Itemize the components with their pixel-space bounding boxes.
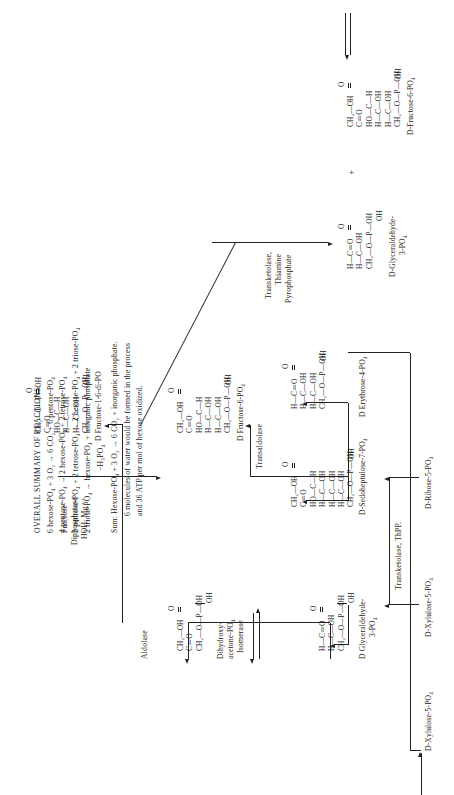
arrow-isomerase-left-icon	[250, 659, 254, 664]
summary-reaction: 4 pentose-PO₄ → 2 hexose-PO₄ + 2 tetrose…	[57, 328, 70, 533]
structure-sedoheptulose-7-po4: CH₂—OH C＝O HO—C—H H—C—OH H—C—OH H—C—OH C…	[290, 451, 356, 507]
summary-title: OVERALL SUMMARY OF REACTIONS:	[32, 328, 45, 533]
summary-sum-line: Sum: Hexose-PO₄ + 3 O₂ → 6 CO₂ + inorgan…	[109, 328, 122, 533]
summary-sum-line: and 36 ATP per mol of hexose oxidized.	[134, 328, 147, 533]
rail-transaldolase	[348, 403, 349, 477]
struct-line: H—C＝O	[346, 213, 355, 269]
arrow-diphosphatase-icon	[156, 476, 161, 480]
enzyme-transketolase-tpp-l3: Pyrophosphate	[284, 255, 294, 303]
struct-line: H—C—OH	[384, 71, 393, 127]
label-fructose-6-po4-right: D Fructose-6-PO₄	[236, 384, 245, 441]
struct-line: H—C—OH	[374, 71, 383, 127]
bond-double-e	[292, 464, 293, 469]
label-fructose-6-po4-bottom: D-Fructose-6-PO₄	[406, 77, 415, 135]
entry-arrow-line-b	[350, 13, 351, 55]
struct-phosphate-oh-g3p: OH	[347, 592, 356, 603]
struct-line: H—C—OH	[214, 377, 223, 433]
bond-double-f	[294, 464, 295, 469]
struct-line: CH₂—OH	[176, 595, 185, 651]
summary-sum-line: 6 molecules of water would be formed in …	[122, 328, 135, 533]
struct-phosphate-o-s7p: O	[281, 462, 290, 467]
label-dihydroxyacetone-l1: Dihydroxy-	[216, 622, 225, 659]
label-glyceraldehyde-3-po4-lower-l1: D-Glyceraldehyde-	[388, 216, 397, 277]
struct-phosphate-oh-f6p: OH	[224, 374, 233, 385]
struct-line: CH₂—OH	[346, 71, 355, 127]
struct-phosphate-oh-g3pb: OH	[375, 210, 384, 221]
arrow-transaldolase-out-icon	[245, 424, 250, 428]
entry-arrow-line-a	[345, 13, 346, 55]
line-s7p-rail	[348, 477, 349, 501]
struct-phosphate-o-e4p: O	[281, 364, 290, 369]
struct-line: CH₂—O—P—OH	[393, 71, 402, 127]
line-transketolase-tpp	[212, 242, 328, 243]
bond-double-o	[348, 84, 349, 89]
struct-line: CH₂—O—P—OH	[365, 213, 374, 269]
struct-phosphate-o-dhap: O	[167, 606, 176, 611]
label-glyceraldehyde-3-po4-l1: D Glyceraldehyde-	[358, 598, 367, 659]
rail-transaldolase-top	[250, 425, 251, 477]
line-ribose-up	[389, 477, 419, 478]
struct-line: CH₂—OH	[176, 377, 185, 433]
bond-double-g	[292, 366, 293, 371]
isomerase-arrow-bottom	[259, 613, 260, 659]
structure-fructose-6-po4: CH₂—OH C＝O HO—C—H H—C—OH H—C—OH CH₂—O—P—…	[176, 377, 232, 433]
label-dihydroxyacetone-l2: acetone-PO₄	[226, 619, 235, 659]
rail-transketolase	[389, 477, 390, 605]
summary-reaction: 2 triose-PO₄ → hexose-PO₄ + inorganic ph…	[82, 328, 95, 533]
struct-line: HO—C—H	[309, 451, 318, 507]
bond-double-m	[348, 226, 349, 231]
bond-double-c	[178, 608, 179, 613]
summary-reaction: 6 hexose-PO₄ + 3 O₂ → 6 CO₂ + 6 pentose-…	[45, 328, 58, 533]
structure-glyceraldehyde-3-po4-lower: H—C＝O H—C—OH CH₂—O—P—OH	[346, 213, 374, 269]
structure-erythrose-4-po4: H—C＝O H—C—OH H—C—OH CH₂—O—P—OH	[290, 353, 328, 409]
bond-double-p	[350, 84, 351, 89]
bond-double-i	[178, 390, 179, 395]
line-aldolase-dhap	[188, 623, 189, 659]
enzyme-transketolase-thpp: Transketolase, ThPP.	[394, 522, 404, 590]
summary-reaction: 2 pentose-PO₄ + 2 tetrose-PO₄ → 2 hexose…	[70, 328, 83, 533]
struct-line: C＝O	[355, 71, 364, 127]
struct-line: HO—C—H	[195, 377, 204, 433]
enzyme-transaldolase: Transaldolase	[255, 424, 265, 469]
arrow-bottom-entry-icon	[345, 55, 349, 60]
struct-phosphate-oh-f6pb: OH	[394, 68, 403, 79]
struct-phosphate-oh-e4p: OH	[319, 350, 328, 361]
bond-double-j	[180, 390, 181, 395]
struct-line: H—C—OH	[337, 451, 346, 507]
struct-phosphate-oh-dhap: OH	[205, 592, 214, 603]
line-xylulose-up	[389, 604, 419, 605]
enzyme-isomerase: Isomerase	[236, 620, 246, 653]
line-transaldolase-up	[250, 476, 348, 477]
arrow-aldolase-to-dhap-icon	[185, 659, 189, 664]
bond-double-d	[180, 608, 181, 613]
line-aldolase-g3p	[330, 623, 331, 659]
struct-line: H—C—OH	[299, 353, 308, 409]
line-recycle-back	[410, 353, 411, 751]
enzyme-transketolase-tpp-l1: Transketolase,	[264, 252, 274, 299]
struct-phosphate-o-f6p: O	[167, 388, 176, 393]
struct-phosphate-o-g3pb: O	[337, 224, 346, 229]
struct-line: HO—C—H	[365, 71, 374, 127]
struct-line: H—C—OH	[318, 451, 327, 507]
struct-phosphate-o-g3p: O	[309, 606, 318, 611]
struct-line: CH₂—OH	[290, 451, 299, 507]
label-glyceraldehyde-3-po4-l2: 3-PO₄	[368, 618, 377, 637]
label-ribose-5-po4: D-Ribose-5-PO₄	[424, 457, 433, 509]
enzyme-transketolase-tpp-l2: Thiamine	[274, 254, 284, 285]
label-glyceraldehyde-3-po4-lower-l2: 3-PO₄	[398, 236, 407, 255]
bond-double-a	[320, 608, 321, 613]
label-erythrose-4-po4: D Erythrose-4-PO₄	[358, 356, 367, 417]
arrow-transketolase-tpp-icon	[328, 242, 333, 246]
line-into-g3p	[334, 644, 348, 645]
label-plus-sign: +	[346, 170, 356, 175]
struct-line: H—C—OH	[328, 451, 337, 507]
line-into-g3p-h	[348, 605, 349, 645]
struct-line: C＝O	[299, 451, 308, 507]
struct-line: C＝O	[185, 377, 194, 433]
line-recycle-down	[348, 352, 410, 353]
isomerase-arrow-top	[253, 613, 254, 659]
line-into-s7p	[306, 500, 348, 501]
enzyme-aldolase: Aldolase	[140, 630, 150, 659]
structure-fructose-6-po4-lower: CH₂—OH C＝O HO—C—H H—C—OH H—C—OH CH₂—O—P—…	[346, 71, 402, 127]
